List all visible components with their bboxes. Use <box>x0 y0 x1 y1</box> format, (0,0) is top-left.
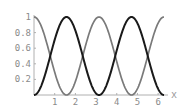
y-tick-label: 1 <box>26 12 31 22</box>
chart: x 0.20.40.60.81 123456 <box>0 0 184 111</box>
y-tick-label: 0.6 <box>15 43 31 53</box>
x-tick-label: 3 <box>93 97 98 107</box>
x-tick-label: 6 <box>155 97 160 107</box>
series-group <box>34 17 164 95</box>
series-line-sin-squared <box>34 17 164 95</box>
x-tick-label: 5 <box>135 97 140 107</box>
y-tick-label: 0.4 <box>15 59 31 69</box>
y-tick-label: 0.2 <box>15 74 31 84</box>
x-tick-label: 2 <box>73 97 78 107</box>
x-axis-label: x <box>171 89 177 100</box>
x-tick-label: 4 <box>114 97 119 107</box>
series-line-cos-squared <box>34 17 164 95</box>
y-tick-label: 0.8 <box>15 28 31 38</box>
y-ticks: 0.20.40.60.81 <box>15 12 36 84</box>
x-tick-label: 1 <box>52 97 57 107</box>
